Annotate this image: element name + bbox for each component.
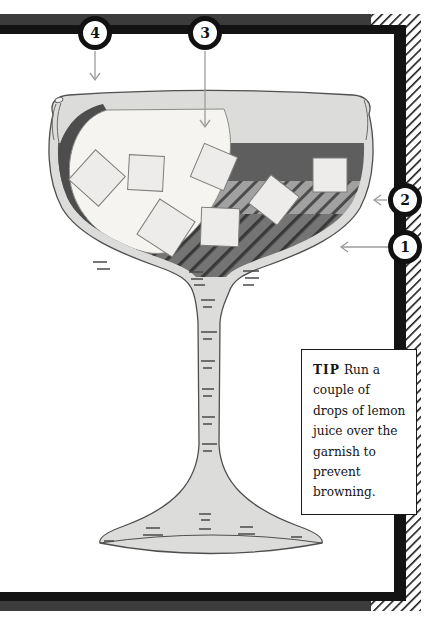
tip-text: Run a couple of drops of lemon juice ove… [313, 363, 405, 499]
bottom-frame-hatch-strip [371, 601, 421, 611]
bottom-frame-gray-bar [0, 601, 371, 611]
callout-badge-1: 1 [388, 230, 422, 264]
ice-cube-6 [200, 207, 239, 246]
top-frame-gray-bar [0, 14, 371, 25]
ice-cube-4 [313, 158, 347, 192]
callout-badge-2: 2 [388, 183, 422, 217]
cocktail-diagram-art [0, 0, 434, 625]
callout-1-arrow-icon [341, 242, 388, 252]
callout-2-arrow-icon [374, 195, 387, 205]
tip-box: TIPRun a couple of drops of lemon juice … [301, 349, 417, 515]
bottom-frame-black-bar [0, 592, 406, 601]
callout-4-arrow-icon [90, 51, 100, 80]
tip-label: TIP [313, 363, 340, 377]
callout-badge-3: 3 [188, 16, 222, 50]
callout-badge-4: 4 [78, 16, 112, 50]
right-frame-hatch-strip [406, 14, 421, 611]
ice-cube-2 [128, 155, 165, 192]
illustration-page: 4 3 2 1 TIPRun a couple of drops of lemo… [0, 0, 434, 625]
